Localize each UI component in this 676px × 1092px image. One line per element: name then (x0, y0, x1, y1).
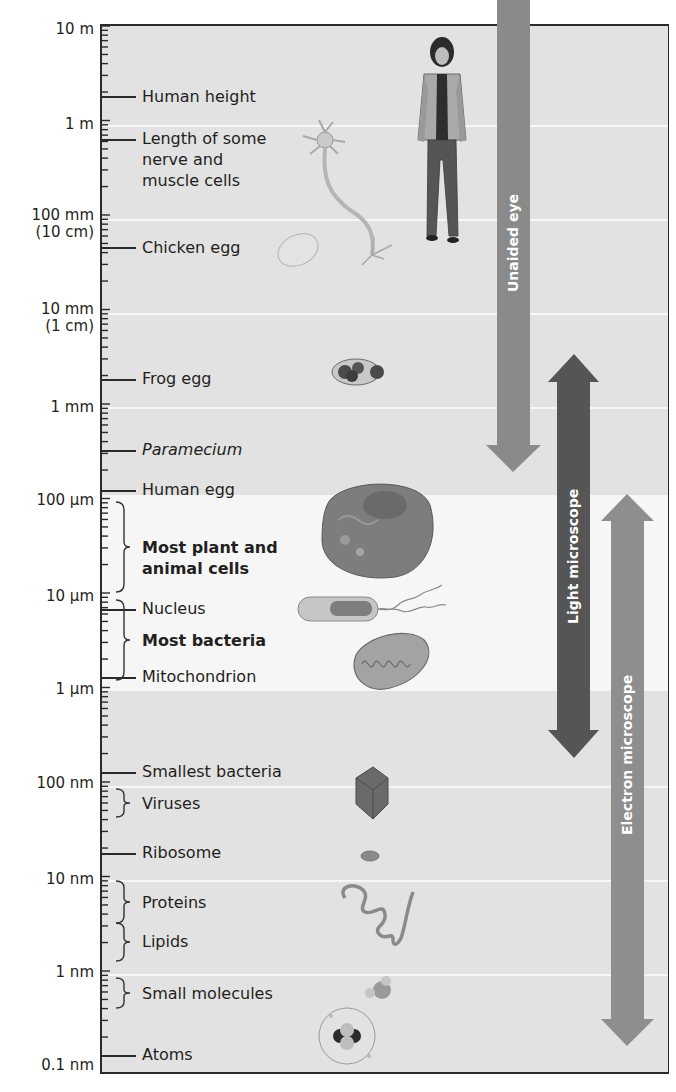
unaided-eye-label: Unaided eye (505, 193, 521, 293)
electron-microscope-label: Electron microscope (619, 695, 635, 835)
light-microscope-label: Light microscope (565, 504, 581, 624)
